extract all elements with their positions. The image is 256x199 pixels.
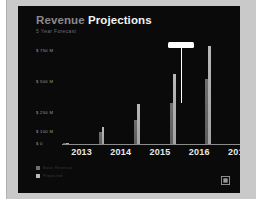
bar-2017-series-2[interactable] [208, 46, 211, 144]
plot-area: $ 750 M$ 500 M$ 250 M$ 100 M$ 0 [36, 42, 240, 144]
x-axis-line [62, 144, 240, 145]
y-axis-tick-label: $ 500 M [36, 79, 53, 84]
x-axis-label-2016: 2016 [180, 146, 219, 158]
legend-item-1[interactable]: Base Revenue [36, 164, 73, 171]
bar-2015-series-2[interactable] [137, 104, 140, 144]
y-axis-tick-label: $ 100 M [36, 129, 53, 134]
y-axis-tick-label: $ 0 [36, 141, 43, 146]
bar-series-layer [62, 42, 240, 144]
bar-group [204, 42, 240, 144]
legend-label: Base Revenue [43, 165, 73, 170]
x-axis-label-2017: 2017 [219, 146, 240, 158]
x-axis-label-2015: 2015 [140, 146, 179, 158]
legend-swatch-icon [36, 174, 40, 178]
y-axis-tick-label: $ 750 M [36, 48, 53, 53]
legend-label: Projected [43, 173, 63, 178]
x-axis-tick-labels: 20132014201520162017 [62, 146, 240, 159]
chart-subtitle: 5 Year Forecast [36, 28, 152, 34]
callout-stem-icon [181, 48, 183, 103]
chart-header: Revenue Projections 5 Year Forecast [36, 14, 152, 34]
y-axis-tick-label: $ 250 M [36, 110, 53, 115]
bar-group [133, 42, 169, 144]
brand-mark-icon [221, 176, 230, 185]
bar-2016-series-2[interactable] [173, 74, 176, 144]
callout-label [168, 42, 194, 48]
title-word-primary: Revenue [36, 14, 85, 26]
left-margin-divider [6, 0, 7, 199]
bar-group [62, 42, 98, 144]
x-axis-label-2014: 2014 [101, 146, 140, 158]
bar-group [169, 42, 205, 144]
legend-swatch-icon [36, 166, 40, 170]
bar-2014-series-2[interactable] [102, 127, 105, 144]
screenshot-frame: Revenue Projections 5 Year Forecast $ 75… [0, 0, 256, 199]
bar-group [98, 42, 134, 144]
legend-item-2[interactable]: Projected [36, 172, 73, 179]
title-word-emphasis: Projections [88, 14, 152, 26]
page-title: Revenue Projections [36, 14, 152, 26]
chart-legend: Base RevenueProjected [36, 164, 73, 180]
x-axis-label-2013: 2013 [62, 146, 101, 158]
chart-canvas: Revenue Projections 5 Year Forecast $ 75… [18, 6, 240, 193]
